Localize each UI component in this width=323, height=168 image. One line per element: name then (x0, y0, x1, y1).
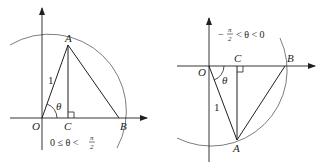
label-theta: θ (56, 100, 62, 112)
label-theta: θ (222, 74, 228, 86)
condition-left: 0 ≤ θ < π 2 (50, 134, 95, 151)
label-b: B (120, 120, 127, 132)
right-figure: A O C B 1 θ − π 2 < θ < 0 (177, 18, 315, 162)
label-c: C (64, 120, 72, 132)
label-a: A (64, 32, 72, 44)
label-side-length: 1 (214, 101, 220, 113)
right-angle-mark (68, 112, 74, 118)
left-figure: A O C B 1 θ 0 ≤ θ < π 2 (10, 8, 147, 151)
frac-numerator: π (228, 26, 232, 34)
right-angle-mark (237, 66, 243, 72)
condition-prefix: 0 ≤ θ < (50, 137, 79, 148)
label-side-length: 1 (48, 74, 54, 86)
label-o: O (32, 120, 40, 132)
label-b: B (287, 52, 294, 64)
segment-ab (68, 45, 119, 118)
unit-circle-arc (177, 38, 287, 146)
frac-denominator: 2 (228, 35, 232, 43)
segment-ab (237, 66, 285, 140)
segment-oa (42, 45, 68, 118)
frac-denominator: 2 (90, 143, 94, 151)
label-c: C (234, 52, 242, 64)
condition-suffix: < θ < 0 (236, 29, 265, 40)
diagram-canvas: A O C B 1 θ 0 ≤ θ < π 2 A O C B 1 θ − π (0, 0, 323, 168)
condition-right: − π 2 < θ < 0 (218, 26, 265, 43)
condition-minus: − (218, 29, 224, 40)
label-a: A (232, 142, 240, 154)
frac-numerator: π (90, 134, 94, 142)
label-o: O (198, 66, 206, 78)
